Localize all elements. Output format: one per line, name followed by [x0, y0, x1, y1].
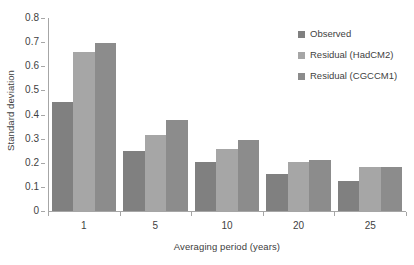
x-axis-tick-mark — [406, 212, 407, 216]
y-axis-tick-mark — [41, 90, 45, 91]
legend-item-label: Observed — [310, 27, 351, 41]
y-axis-tick-mark — [41, 211, 45, 212]
y-axis-title: Standard deviation — [4, 14, 18, 207]
y-axis-tick-label: 0 — [33, 204, 39, 217]
y-axis-tick-mark — [41, 42, 45, 43]
y-axis-tick-label: 0.4 — [25, 108, 39, 121]
x-axis-tick-mark — [191, 212, 192, 216]
bar — [123, 151, 145, 211]
y-axis-tick-label: 0.1 — [25, 180, 39, 193]
bar — [195, 162, 217, 211]
bar — [166, 120, 188, 211]
x-axis-tick-mark — [334, 212, 335, 216]
bar — [359, 167, 381, 211]
bar — [338, 181, 360, 211]
bar — [238, 140, 260, 211]
y-axis-tick-mark — [41, 163, 45, 164]
y-axis-tick-label: 0.8 — [25, 11, 39, 24]
y-axis-tick-label: 0.6 — [25, 59, 39, 72]
bar — [145, 135, 167, 211]
bar — [381, 167, 403, 211]
legend-swatch-icon — [298, 73, 305, 80]
x-axis-title: Averaging period (years) — [48, 240, 406, 254]
bar — [52, 102, 74, 211]
x-axis-tick-mark — [120, 212, 121, 216]
legend-item-label: Residual (CGCCM1) — [310, 69, 397, 83]
bar — [95, 43, 117, 211]
x-axis-tick-mark — [48, 212, 49, 216]
x-axis-tick-mark — [263, 212, 264, 216]
legend-swatch-icon — [298, 31, 305, 38]
bar — [73, 52, 95, 211]
x-axis-tick-label: 25 — [334, 219, 406, 233]
y-axis-tick-mark — [41, 187, 45, 188]
y-axis-tick-mark — [41, 115, 45, 116]
y-axis-tick-label: 0.3 — [25, 132, 39, 145]
y-axis-tick-mark — [41, 66, 45, 67]
legend-item[interactable]: Residual (CGCCM1) — [298, 69, 414, 90]
x-axis-tick-label: 1 — [48, 219, 120, 233]
y-axis-tick-label: 0.2 — [25, 156, 39, 169]
x-axis-line — [48, 211, 406, 212]
y-axis-tick-mark — [41, 139, 45, 140]
y-axis-tick-label: 0.5 — [25, 83, 39, 96]
legend-swatch-icon — [298, 52, 305, 59]
chart-legend: ObservedResidual (HadCM2)Residual (CGCCM… — [298, 27, 414, 90]
x-axis-tick-label: 5 — [120, 219, 192, 233]
bar — [266, 174, 288, 211]
legend-item[interactable]: Residual (HadCM2) — [298, 48, 414, 69]
bar — [288, 162, 310, 211]
y-axis-tick-mark — [41, 18, 45, 19]
bar-chart: Standard deviation 00.10.20.30.40.50.60.… — [0, 0, 414, 265]
legend-item-label: Residual (HadCM2) — [310, 48, 393, 62]
bar — [309, 160, 331, 211]
x-axis-tick-label: 20 — [263, 219, 335, 233]
x-axis-tick-label: 10 — [191, 219, 263, 233]
legend-item[interactable]: Observed — [298, 27, 414, 48]
y-axis-tick-label: 0.7 — [25, 35, 39, 48]
bar — [216, 149, 238, 211]
